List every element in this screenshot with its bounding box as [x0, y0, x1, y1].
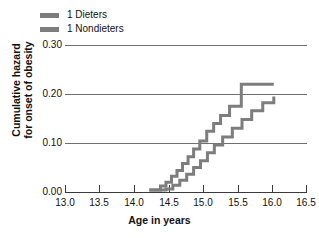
step-curves: [0, 0, 319, 238]
series-line-nondieters: [149, 96, 273, 190]
cumulative-hazard-chart: 1 Dieters 1 Nondieters 0.30 0.20 0.10 0.…: [0, 0, 319, 238]
series-line-dieters: [149, 84, 273, 190]
